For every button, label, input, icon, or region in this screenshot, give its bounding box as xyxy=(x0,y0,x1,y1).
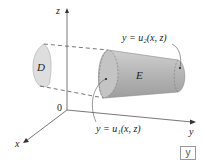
y-axis xyxy=(67,110,192,122)
x-axis xyxy=(26,110,67,141)
origin-label: 0 xyxy=(57,103,62,113)
solid-label-e: E xyxy=(136,70,143,81)
z-axis-label: z xyxy=(56,6,60,16)
projection-label-d: D xyxy=(37,62,45,73)
y-axis-label: y xyxy=(189,127,193,137)
corner-badge: y xyxy=(180,146,196,160)
diagram-canvas xyxy=(0,0,203,161)
x-axis-arrow-icon xyxy=(23,138,29,143)
z-axis-arrow-icon xyxy=(65,8,69,13)
x-axis-label: x xyxy=(15,139,19,149)
y-axis-arrow-icon xyxy=(190,120,196,125)
dashed-line-top xyxy=(44,44,108,50)
lower-surface-label: y = u₁(x, z) xyxy=(96,124,141,134)
upper-surface-label: y = u₂(x, z) xyxy=(122,33,167,43)
